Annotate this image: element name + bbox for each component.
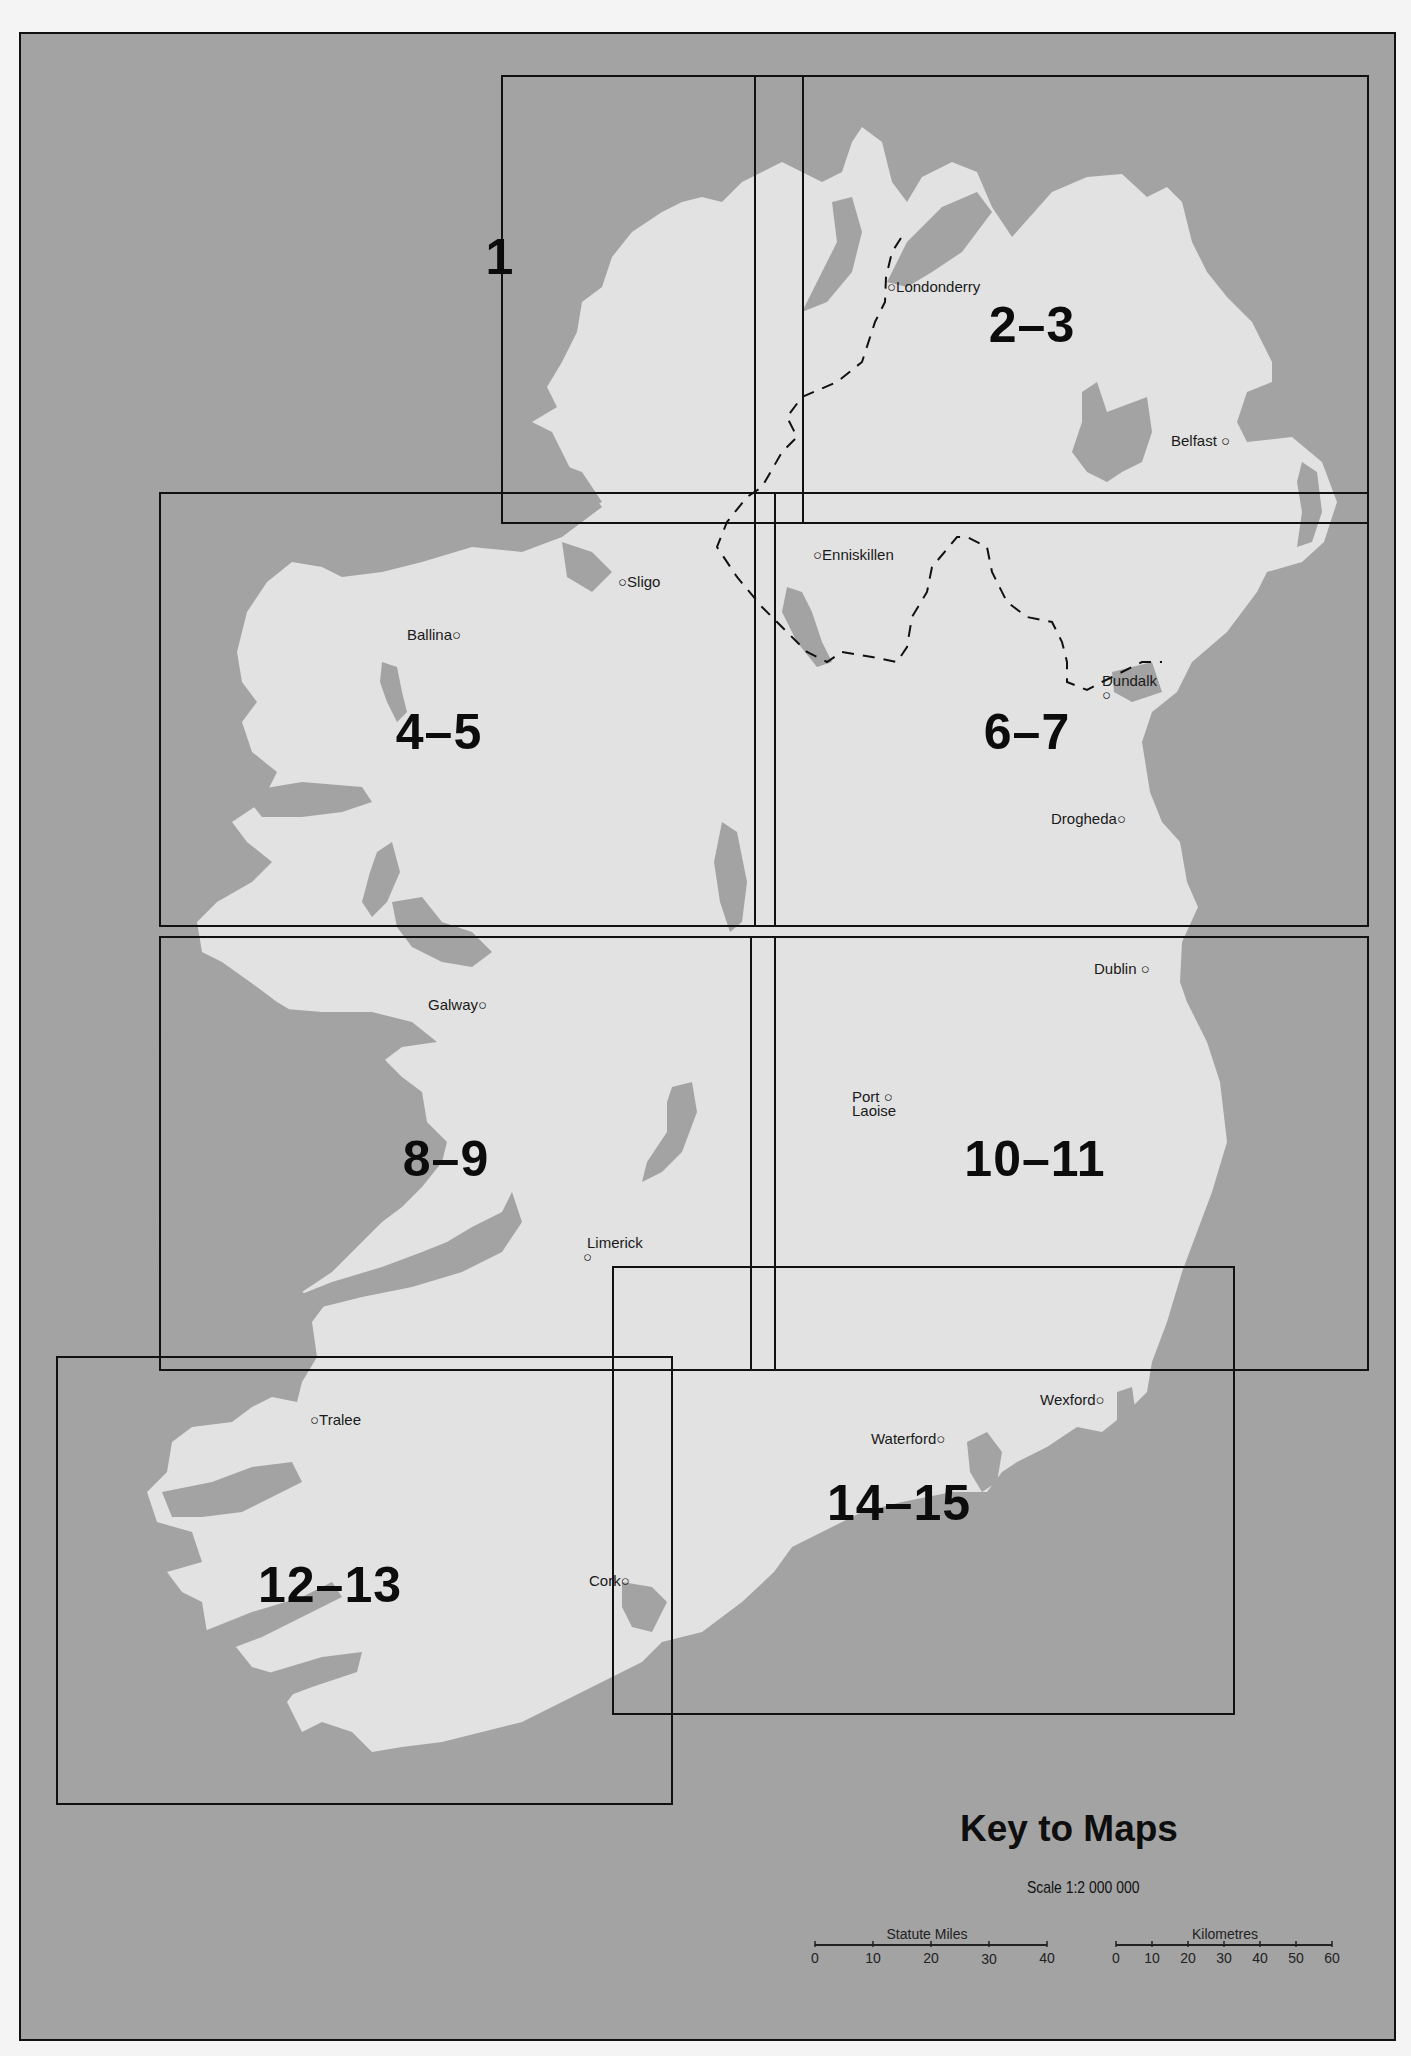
town-sligo: ○Sligo (618, 575, 660, 589)
town-name: Londonderry (896, 278, 980, 295)
km-tick: 40 (1252, 1950, 1268, 1966)
ireland-map (21, 34, 1396, 2041)
town-limerick-dot: ○ (583, 1250, 592, 1264)
map-frame: 1 2–3 4–5 6–7 8–9 10–11 12–13 14–15 ○Lon… (19, 32, 1396, 2041)
town-name: Sligo (627, 573, 660, 590)
town-dot-icon: ○ (1221, 432, 1230, 449)
town-name: Tralee (319, 1411, 361, 1428)
town-tralee: ○Tralee (310, 1413, 361, 1427)
town-dot-icon: ○ (478, 996, 487, 1013)
town-dot-icon: ○ (452, 626, 461, 643)
km-tick: 30 (1216, 1950, 1232, 1966)
km-tick: 20 (1180, 1950, 1196, 1966)
town-londonderry: ○Londonderry (887, 280, 980, 294)
miles-tick: 20 (923, 1950, 939, 1966)
scale-ratio: Scale 1:2 000 000 (1027, 1878, 1139, 1898)
town-dot-icon: ○ (310, 1411, 319, 1428)
town-wexford: Wexford○ (1040, 1393, 1105, 1407)
town-dundalk-dot: ○ (1102, 688, 1111, 702)
town-dublin: Dublin ○ (1094, 962, 1150, 976)
miles-tick: 30 (981, 1951, 997, 1967)
town-name: Dublin (1094, 960, 1137, 977)
miles-tick: 40 (1039, 1950, 1055, 1966)
town-waterford: Waterford○ (871, 1432, 945, 1446)
town-name: Limerick (587, 1234, 643, 1251)
sheet-label-2-3[interactable]: 2–3 (989, 296, 1075, 354)
town-name: Ballina (407, 626, 452, 643)
town-cork: Cork○ (589, 1574, 630, 1588)
town-dot-icon: ○ (1102, 686, 1111, 703)
town-name: Waterford (871, 1430, 936, 1447)
town-dot-icon: ○ (621, 1572, 630, 1589)
town-limerick: Limerick (587, 1236, 643, 1250)
km-tick: 0 (1112, 1950, 1120, 1966)
town-name: Enniskillen (822, 546, 894, 563)
town-dot-icon: ○ (813, 546, 822, 563)
town-ballina: Ballina○ (407, 628, 461, 642)
town-name: Belfast (1171, 432, 1217, 449)
sheet-label-1[interactable]: 1 (486, 228, 515, 286)
town-name: Drogheda (1051, 810, 1117, 827)
land-mass (147, 127, 1337, 1752)
sheet-label-8-9[interactable]: 8–9 (403, 1130, 489, 1188)
town-dot-icon: ○ (583, 1248, 592, 1265)
town-name: Cork (589, 1572, 621, 1589)
town-belfast: Belfast ○ (1171, 434, 1230, 448)
km-tick: 60 (1324, 1950, 1340, 1966)
sheet-label-14-15[interactable]: 14–15 (827, 1474, 971, 1532)
town-name: Laoise (852, 1102, 896, 1119)
town-drogheda: Drogheda○ (1051, 812, 1126, 826)
town-dot-icon: ○ (936, 1430, 945, 1447)
sheet-label-6-7[interactable]: 6–7 (984, 703, 1070, 761)
town-dot-icon: ○ (1141, 960, 1150, 977)
town-name: Galway (428, 996, 478, 1013)
km-tick: 10 (1144, 1950, 1160, 1966)
town-name: Wexford (1040, 1391, 1096, 1408)
town-dot-icon: ○ (1117, 810, 1126, 827)
town-dot-icon: ○ (1096, 1391, 1105, 1408)
miles-tick: 0 (811, 1950, 819, 1966)
town-dot-icon: ○ (887, 278, 896, 295)
sheet-label-4-5[interactable]: 4–5 (396, 703, 482, 761)
town-enniskillen: ○Enniskillen (813, 548, 894, 562)
miles-tick: 10 (865, 1950, 881, 1966)
map-title: Key to Maps (960, 1808, 1178, 1850)
sheet-label-10-11[interactable]: 10–11 (964, 1130, 1105, 1188)
sheet-label-12-13[interactable]: 12–13 (258, 1556, 402, 1614)
town-dot-icon: ○ (618, 573, 627, 590)
km-tick: 50 (1288, 1950, 1304, 1966)
town-port-laoise: Port ○Laoise (852, 1090, 896, 1118)
town-galway: Galway○ (428, 998, 487, 1012)
